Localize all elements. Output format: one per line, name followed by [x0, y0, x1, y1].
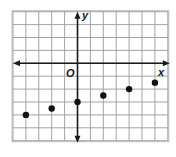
- data-point: [152, 79, 158, 85]
- x-axis-label: x: [157, 66, 165, 78]
- axes: [13, 12, 170, 143]
- y-axis-label: y: [81, 9, 89, 21]
- data-point: [23, 112, 29, 118]
- origin-label: O: [66, 67, 75, 79]
- data-point: [74, 99, 80, 105]
- x-axis-left-arrow-icon: [13, 60, 20, 66]
- data-point: [49, 105, 55, 111]
- data-point: [100, 92, 106, 98]
- data-point: [126, 86, 132, 92]
- coordinate-plane: x y O: [0, 0, 176, 157]
- y-axis-up-arrow-icon: [75, 12, 81, 19]
- grid-lines: [12, 11, 169, 142]
